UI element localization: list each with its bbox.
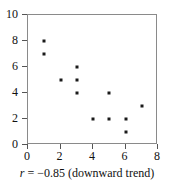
x-axis-tick-label: 4 xyxy=(80,150,104,162)
caption-equals: = xyxy=(24,166,37,180)
data-point xyxy=(43,53,46,56)
x-axis-tick-label: 6 xyxy=(113,150,137,162)
data-point xyxy=(75,66,78,69)
x-axis-tick-label: 2 xyxy=(48,150,72,162)
data-point xyxy=(108,92,111,95)
scatter-plot-figure: 0246810 02468 r = −0.85 (downward trend) xyxy=(0,0,174,186)
figure-caption: r = −0.85 (downward trend) xyxy=(0,166,174,181)
data-point xyxy=(124,131,127,134)
y-axis-tick xyxy=(22,40,27,41)
y-axis-tick-label: 2 xyxy=(0,112,18,124)
y-axis-tick-label: 0 xyxy=(0,138,18,150)
y-axis-tick-label: 8 xyxy=(0,34,18,46)
y-axis-tick xyxy=(22,14,27,15)
data-point xyxy=(124,118,127,121)
data-point xyxy=(92,118,95,121)
x-axis-tick-label: 0 xyxy=(15,150,39,162)
plot-area xyxy=(27,14,157,144)
x-axis-tick-label: 8 xyxy=(145,150,169,162)
caption-correlation-value: −0.85 xyxy=(37,166,65,180)
y-axis-tick-label: 4 xyxy=(0,86,18,98)
data-point xyxy=(75,79,78,82)
data-point xyxy=(59,79,62,82)
caption-note: (downward trend) xyxy=(65,166,154,180)
data-point xyxy=(108,118,111,121)
y-axis-tick-label: 10 xyxy=(0,8,18,20)
y-axis-tick xyxy=(22,66,27,67)
data-point xyxy=(140,105,143,108)
y-axis-tick-label: 6 xyxy=(0,60,18,72)
data-point xyxy=(43,40,46,43)
y-axis-tick xyxy=(22,118,27,119)
data-point xyxy=(75,92,78,95)
y-axis-tick xyxy=(22,92,27,93)
